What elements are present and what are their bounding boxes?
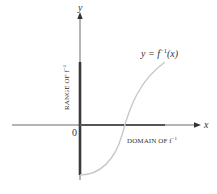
y-axis-label: y bbox=[77, 2, 83, 13]
origin-label: 0 bbox=[72, 127, 77, 138]
x-axis-label: x bbox=[203, 119, 209, 130]
curve-label: y = f−1(x) bbox=[140, 47, 179, 60]
range-label: RANGE OF f−1 bbox=[62, 64, 71, 110]
inverse-function-diagram: y x 0 y = f−1(x) RANGE OF f−1 DOMAIN OF … bbox=[0, 0, 217, 194]
domain-label: DOMAIN OF f−1 bbox=[127, 136, 178, 145]
y-axis-arrow-icon bbox=[77, 12, 82, 19]
inverse-curve bbox=[80, 62, 165, 175]
x-axis-arrow-icon bbox=[194, 122, 201, 127]
